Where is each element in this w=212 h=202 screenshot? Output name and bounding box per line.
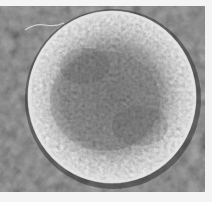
micrograph-image [0,6,205,192]
micrograph-frame [0,6,205,192]
